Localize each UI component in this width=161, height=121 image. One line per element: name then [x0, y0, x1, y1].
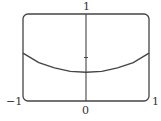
chart: −1 0 1 1: [0, 0, 161, 121]
y-tick-label-top: 1: [83, 0, 90, 13]
x-tick-label-left: −1: [6, 95, 22, 108]
x-tick-label-right: 1: [152, 95, 159, 108]
x-tick-label-center: 0: [82, 104, 89, 117]
